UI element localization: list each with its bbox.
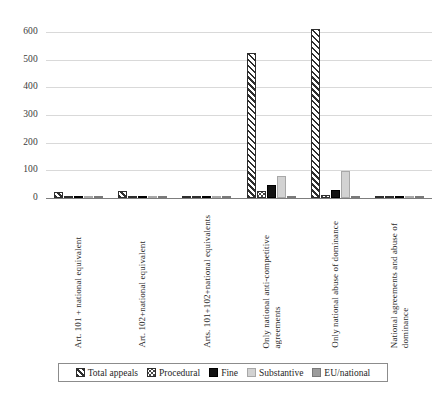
legend-swatch-icon bbox=[247, 368, 256, 377]
legend-swatch-icon bbox=[76, 368, 85, 377]
bar bbox=[74, 196, 83, 198]
bar bbox=[395, 196, 404, 198]
bar bbox=[385, 196, 394, 198]
y-tick-label: 0 bbox=[8, 193, 38, 203]
x-label-cell: Only national abuse of dominance bbox=[303, 200, 367, 348]
y-tick-label: 200 bbox=[8, 138, 38, 148]
legend-item: Total appeals bbox=[76, 368, 138, 378]
bar-group bbox=[175, 18, 239, 198]
legend-swatch-icon bbox=[209, 368, 218, 377]
bar-group-bars bbox=[303, 18, 367, 198]
legend-label: Substantive bbox=[259, 368, 303, 378]
axis-line-zero bbox=[46, 198, 432, 199]
bar-group-bars bbox=[239, 18, 303, 198]
y-tick-label: 300 bbox=[8, 110, 38, 120]
bar-group bbox=[110, 18, 174, 198]
bar bbox=[64, 196, 73, 198]
bar bbox=[182, 196, 191, 198]
bar-group bbox=[239, 18, 303, 198]
bar bbox=[148, 196, 157, 198]
legend-label: Total appeals bbox=[88, 368, 138, 378]
y-tick-label: 500 bbox=[8, 55, 38, 65]
bar bbox=[415, 196, 424, 198]
x-tick-label: National agreements and abuse of dominan… bbox=[389, 223, 410, 348]
x-label-cell: Arts. 101+102+national equivalents bbox=[175, 200, 239, 348]
bar bbox=[94, 196, 103, 198]
bar bbox=[222, 196, 231, 198]
x-tick-label: Art. 101 + national equivalent bbox=[73, 237, 84, 348]
bar bbox=[311, 29, 320, 198]
bar bbox=[54, 192, 63, 198]
bar bbox=[257, 191, 266, 198]
x-label-cell: Art. 101 + national equivalent bbox=[46, 200, 110, 348]
bar bbox=[247, 53, 256, 198]
y-tick-label: 600 bbox=[8, 27, 38, 37]
bar bbox=[128, 196, 137, 198]
bar bbox=[158, 196, 167, 198]
x-axis-category-labels: Art. 101 + national equivalentArt. 102+n… bbox=[46, 200, 432, 348]
bar-groups bbox=[46, 18, 432, 198]
x-label-cell: Only national anti-competitive agreement… bbox=[239, 200, 303, 348]
legend-label: EU/national bbox=[324, 368, 370, 378]
bar-group-bars bbox=[368, 18, 432, 198]
bar bbox=[405, 196, 414, 198]
legend-item: Procedural bbox=[147, 368, 200, 378]
chart-legend: Total appealsProceduralFineSubstantiveEU… bbox=[58, 363, 388, 382]
x-tick-label: Only national abuse of dominance bbox=[330, 221, 341, 348]
bar-group-bars bbox=[110, 18, 174, 198]
bar-group bbox=[303, 18, 367, 198]
bar bbox=[341, 171, 350, 198]
x-tick-label: Arts. 101+102+national equivalents bbox=[202, 215, 213, 348]
legend-label: Procedural bbox=[159, 368, 200, 378]
legend-item: Substantive bbox=[247, 368, 303, 378]
y-tick-label: 400 bbox=[8, 82, 38, 92]
legend-swatch-icon bbox=[147, 368, 156, 377]
plot-area bbox=[46, 18, 432, 198]
legend-item: EU/national bbox=[312, 368, 370, 378]
y-tick-label: 100 bbox=[8, 165, 38, 175]
x-tick-label: Art. 102+national equivalent bbox=[137, 241, 148, 348]
bar bbox=[192, 196, 201, 198]
bar-group-bars bbox=[46, 18, 110, 198]
x-tick-label: Only national anti-competitive agreement… bbox=[261, 235, 282, 348]
bar bbox=[138, 196, 147, 198]
x-label-cell: National agreements and abuse of dominan… bbox=[368, 200, 432, 348]
bar bbox=[331, 190, 340, 198]
bar bbox=[267, 185, 276, 198]
legend-label: Fine bbox=[221, 368, 238, 378]
bar bbox=[321, 195, 330, 198]
bar-group-bars bbox=[175, 18, 239, 198]
bar bbox=[212, 196, 221, 198]
bar bbox=[351, 196, 360, 198]
legend-item: Fine bbox=[209, 368, 238, 378]
bar bbox=[277, 176, 286, 198]
bar-group bbox=[46, 18, 110, 198]
bar bbox=[84, 196, 93, 198]
bar bbox=[202, 196, 211, 198]
bar bbox=[375, 196, 384, 198]
legend-swatch-icon bbox=[312, 368, 321, 377]
bar-group bbox=[368, 18, 432, 198]
x-label-cell: Art. 102+national equivalent bbox=[110, 200, 174, 348]
bar bbox=[118, 191, 127, 198]
bar bbox=[287, 196, 296, 198]
bar-chart: 0100200300400500600 Art. 101 + national … bbox=[0, 0, 440, 404]
